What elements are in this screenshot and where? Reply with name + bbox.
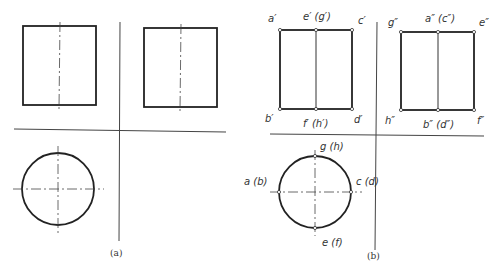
figure-a: (a) — [13, 22, 226, 258]
horizontal-axis-b — [270, 134, 484, 136]
caption-a: (a) — [110, 248, 122, 258]
label-f-dprime: f″ — [477, 115, 485, 126]
label-e-f: e (f) — [322, 237, 343, 248]
label-c-prime: c′ — [358, 15, 366, 26]
vertical-axis — [119, 22, 120, 241]
label-b-dprime: b″ (d″) — [423, 119, 454, 130]
label-a-dprime: a″ (c″) — [425, 13, 455, 24]
figure-b: a′ e′ (g′) c′ b′ f′ (h′) d′ g″ a″ (c″) e… — [244, 11, 489, 261]
projection-diagram: (a) a′ e′ (g′) c′ b′ f′ (h′) d′ g″ a″ (c… — [0, 0, 497, 271]
label-f-prime: f′ (h′) — [303, 118, 328, 129]
label-d-prime: d′ — [354, 114, 363, 125]
side-centerline — [180, 24, 181, 111]
label-a-b: a (b) — [244, 176, 267, 187]
label-g-dprime: g″ — [388, 17, 398, 28]
label-c-d: c (d) — [356, 176, 379, 187]
vertical-axis-b — [375, 22, 377, 250]
label-e-dprime: e″ — [479, 17, 489, 28]
caption-b: (b) — [367, 251, 380, 261]
front-centerline — [59, 22, 60, 109]
label-e-prime: e′ (g′) — [303, 11, 331, 22]
label-g-h: g (h) — [320, 141, 344, 152]
label-h-dprime: h″ — [385, 115, 395, 126]
label-a-prime: a′ — [268, 13, 277, 24]
label-b-prime: b′ — [265, 113, 274, 124]
